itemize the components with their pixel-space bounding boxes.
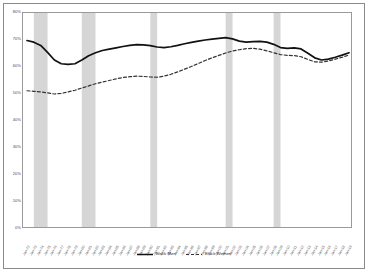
y-axis-tick-label: 20% [13, 172, 21, 176]
y-axis-tick-label: 80% [13, 10, 21, 14]
chart-page: 0%10%20%30%40%50%60%70%80% Jan-72Jan-73J… [0, 0, 368, 273]
legend-label-black-women: Black Women [205, 252, 231, 256]
y-axis-tick-label: 40% [13, 118, 21, 122]
legend-swatch-solid [137, 252, 153, 257]
legend-item-black-women: Black Women [186, 252, 231, 257]
chart-legend: Black Men Black Women [0, 252, 368, 257]
legend-label-black-men: Black Men [156, 252, 176, 256]
y-axis-tick-label: 50% [13, 91, 21, 95]
y-axis-tick-label: 70% [13, 37, 21, 41]
y-axis-labels: 0%10%20%30%40%50%60%70%80% [3, 12, 22, 228]
line-chart-svg [23, 13, 352, 228]
y-axis-tick-label: 30% [13, 145, 21, 149]
y-axis-tick-label: 10% [13, 199, 21, 203]
y-axis-tick-label: 60% [13, 64, 21, 68]
legend-item-black-men: Black Men [137, 252, 176, 257]
legend-swatch-dashed [186, 252, 202, 257]
series-line-black-men [27, 38, 349, 65]
series-line-black-women [27, 48, 349, 94]
plot-area [22, 12, 352, 228]
recession-band [82, 13, 96, 228]
y-axis-tick-label: 0% [15, 226, 21, 230]
recession-band [226, 13, 233, 228]
